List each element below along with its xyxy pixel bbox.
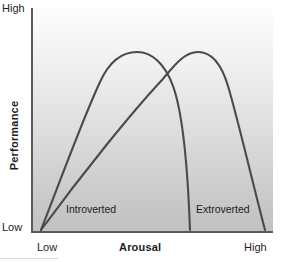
x-axis-high-tick: High bbox=[244, 242, 267, 253]
curve-label-extroverted: Extroverted bbox=[196, 204, 250, 215]
x-axis-low-tick: Low bbox=[37, 242, 57, 253]
curves-svg bbox=[32, 8, 273, 232]
curve-label-introverted: Introverted bbox=[66, 204, 116, 215]
y-axis-high-tick: High bbox=[2, 3, 25, 14]
y-axis-title: Performance bbox=[9, 96, 20, 176]
x-axis-title: Arousal bbox=[119, 242, 161, 253]
chart-figure: High Low Low High Arousal Performance In… bbox=[0, 0, 282, 262]
bottom-divider bbox=[0, 258, 58, 259]
y-axis-low-tick: Low bbox=[2, 222, 22, 233]
